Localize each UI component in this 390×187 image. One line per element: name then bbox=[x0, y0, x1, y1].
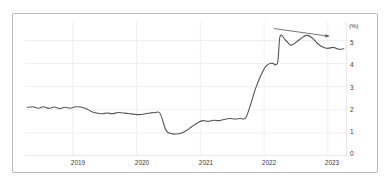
y-axis-tick-0: 0 bbox=[350, 151, 354, 158]
y-axis-unit-label: (%) bbox=[349, 23, 359, 29]
chart-screenshot: (%) 5 4 3 2 1 0 2019 2020 2021 2022 2023 bbox=[0, 0, 390, 187]
y-axis-tick-1: 1 bbox=[350, 129, 354, 136]
vertical-gridlines bbox=[73, 22, 328, 156]
y-axis-tick-3: 3 bbox=[350, 85, 354, 92]
x-axis-tick-2022: 2022 bbox=[254, 160, 284, 167]
x-axis-tick-2023: 2023 bbox=[317, 160, 347, 167]
y-axis-tick-4: 4 bbox=[350, 62, 354, 69]
y-axis-tick-5: 5 bbox=[350, 40, 354, 47]
y-axis-tick-2: 2 bbox=[350, 107, 354, 114]
chart-axes bbox=[25, 22, 347, 156]
x-axis-tick-2020: 2020 bbox=[127, 160, 157, 167]
horizontal-gridlines bbox=[25, 40, 347, 132]
line-chart-svg bbox=[25, 22, 347, 156]
data-series-line bbox=[28, 35, 344, 134]
x-axis-tick-2019: 2019 bbox=[63, 160, 93, 167]
plot-area bbox=[25, 22, 347, 156]
x-axis-tick-2021: 2021 bbox=[191, 160, 221, 167]
